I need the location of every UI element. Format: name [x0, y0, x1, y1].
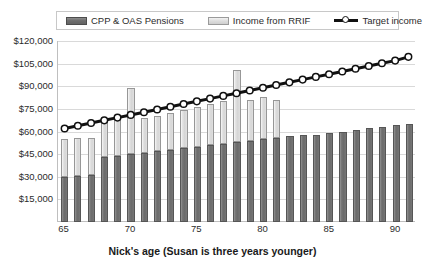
y-axis-tick-label: $75,000 [1, 104, 53, 114]
x-axis-tick-label: 85 [324, 224, 335, 234]
target-income-marker [326, 71, 333, 78]
target-income-marker [392, 57, 399, 64]
x-axis-tick-label: 90 [390, 224, 401, 234]
target-income-marker [88, 120, 95, 127]
y-axis-tick-label: $105,000 [1, 59, 53, 69]
target-income-marker [313, 74, 320, 81]
x-axis-title: Nick's age (Susan is three years younger… [0, 246, 425, 257]
retirement-income-chart: CPP & OAS Pensions Income from RRIF Targ… [0, 0, 425, 269]
target-income-marker [194, 98, 201, 105]
y-axis-tick-label: $45,000 [1, 149, 53, 159]
x-axis-labels: 657075808590 [57, 224, 415, 238]
target-income-marker [260, 84, 267, 91]
target-income-marker [141, 109, 148, 116]
target-income-marker [286, 79, 293, 86]
target-income-marker [127, 112, 134, 119]
y-axis-tick-label: $90,000 [1, 81, 53, 91]
y-axis-tick-label: $60,000 [1, 127, 53, 137]
target-income-marker [299, 76, 306, 83]
target-income-marker [207, 95, 214, 102]
target-income-line-layer [58, 41, 415, 222]
target-income-marker [352, 65, 359, 72]
target-income-marker [101, 117, 108, 124]
chart-legend: CPP & OAS Pensions Income from RRIF Targ… [56, 11, 399, 30]
target-income-marker [405, 54, 412, 61]
x-axis-tick-label: 70 [125, 224, 136, 234]
y-axis-tick-label: $15,000 [1, 194, 53, 204]
plot-area [57, 41, 415, 222]
target-income-marker [154, 106, 161, 113]
x-axis-tick-label: 65 [58, 224, 69, 234]
legend-label-income-from-rrif: Income from RRIF [233, 16, 311, 26]
legend-item-target-income: Target income [334, 12, 422, 29]
target-income-marker [75, 122, 82, 129]
x-axis-tick-label: 80 [257, 224, 268, 234]
y-axis-labels: $120,000$105,000$90,000$75,000$60,000$45… [0, 41, 53, 222]
target-income-marker [167, 103, 174, 110]
target-income-marker [114, 114, 121, 121]
legend-item-income-from-rrif: Income from RRIF [208, 12, 311, 29]
legend-item-cpp-oas-pensions: CPP & OAS Pensions [66, 12, 184, 29]
target-income-marker [61, 125, 68, 132]
target-income-marker [273, 82, 280, 89]
target-income-marker [180, 101, 187, 108]
y-axis-tick-label: $30,000 [1, 172, 53, 182]
y-axis-tick-label: $120,000 [1, 36, 53, 46]
target-income-marker [379, 60, 386, 67]
target-income-marker [233, 90, 240, 97]
dark-swatch-icon [66, 17, 87, 25]
legend-label-target-income: Target income [362, 16, 422, 26]
target-income-marker [220, 93, 227, 100]
target-income-marker [365, 63, 372, 70]
line-marker-icon [334, 16, 358, 25]
x-axis-tick-label: 75 [191, 224, 202, 234]
target-income-marker [339, 68, 346, 75]
light-swatch-icon [208, 17, 229, 25]
legend-label-cpp-oas-pensions: CPP & OAS Pensions [91, 16, 184, 26]
target-income-marker [246, 87, 253, 94]
